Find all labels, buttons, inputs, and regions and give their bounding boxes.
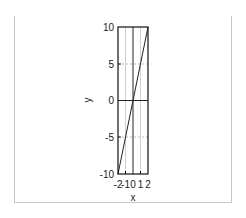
svg-text:-1: -1 bbox=[121, 179, 130, 190]
svg-text:0: 0 bbox=[108, 95, 114, 106]
plot: 10 5 0 -5 -10 -2 -1 0 1 2 x y bbox=[0, 0, 246, 218]
svg-text:0: 0 bbox=[130, 179, 136, 190]
svg-text:10: 10 bbox=[103, 22, 115, 33]
x-tick-labels: -2 -1 0 1 2 bbox=[114, 179, 152, 190]
svg-text:-5: -5 bbox=[105, 132, 114, 143]
svg-text:5: 5 bbox=[108, 59, 114, 70]
svg-text:-10: -10 bbox=[100, 169, 115, 180]
y-tick-labels: 10 5 0 -5 -10 bbox=[100, 22, 115, 180]
x-axis-label: x bbox=[131, 192, 136, 203]
svg-text:1: 1 bbox=[138, 179, 144, 190]
y-axis-label: y bbox=[82, 98, 93, 103]
svg-text:2: 2 bbox=[145, 179, 151, 190]
